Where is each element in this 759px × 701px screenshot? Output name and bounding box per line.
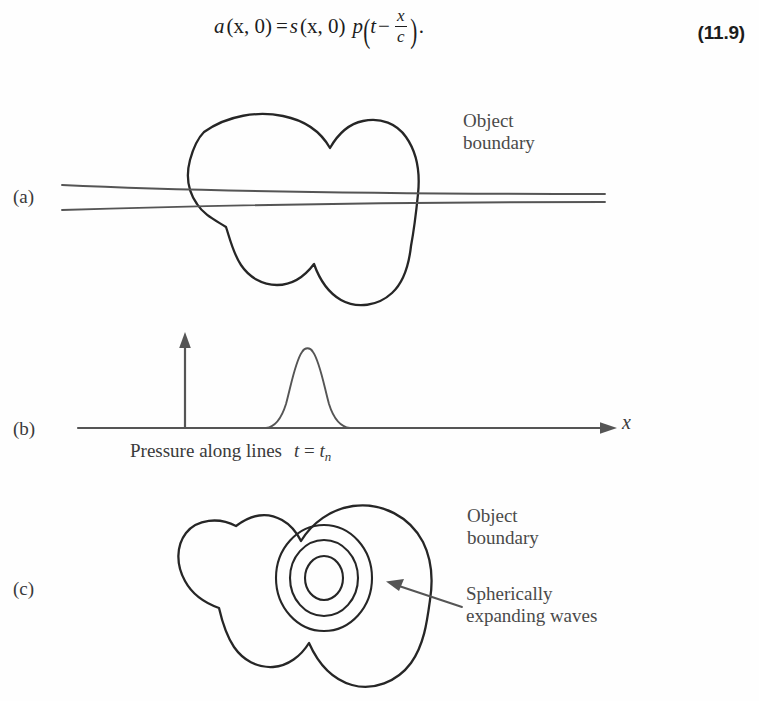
equation-rhs-arguments-s: (x, 0): [298, 14, 348, 38]
wavefront-circle-inner: [305, 556, 343, 600]
equation-rhs-function-p: p: [352, 14, 363, 38]
object-boundary-outline-a: [188, 114, 419, 305]
caption-prefix-text: Pressure along lines: [130, 440, 282, 461]
equation-close-paren: ): [410, 12, 417, 49]
caption-variable-t: t: [294, 440, 299, 461]
object-boundary-outline-c: [178, 505, 431, 686]
equation-fraction-numerator: x: [395, 7, 407, 26]
figure-b-graphic: [0, 320, 759, 460]
annotation-arrow-left-icon: [386, 579, 404, 591]
ray-line-lower-a: [62, 202, 605, 210]
x-axis-label: x: [622, 411, 631, 434]
equation-lhs-function: a: [214, 14, 225, 38]
ray-line-upper-a: [62, 185, 605, 194]
caption-equals: =: [304, 440, 315, 461]
equation-fraction-denominator: c: [395, 26, 407, 46]
document-page: a(x, 0)=s(x, 0)p(t−xc). (11.9) (a) Objec…: [0, 0, 759, 701]
equation-rhs-function-s: s: [290, 14, 298, 38]
equation-equals-sign: =: [274, 14, 290, 38]
figure-c-graphic: [0, 490, 759, 701]
equation-number: (11.9): [698, 22, 745, 44]
figure-b-caption: Pressure along linest = tn: [130, 440, 331, 465]
annotation-object-boundary-c: Object boundary: [467, 505, 539, 549]
annotation-arrow-shaft: [393, 584, 462, 607]
annotation-spherically-expanding-waves: Spherically expanding waves: [466, 583, 597, 627]
equation-lhs-arguments: (x, 0): [224, 14, 274, 38]
annotation-object-boundary-a: Object boundary: [463, 110, 535, 154]
equation-fraction-x-over-c: xc: [395, 7, 407, 47]
equation-inner-minus: −: [376, 14, 392, 38]
equation-row: a(x, 0)=s(x, 0)p(t−xc). (11.9): [0, 8, 759, 66]
equation-terminal-period: .: [417, 14, 426, 38]
equation-open-paren: (: [363, 12, 370, 49]
figure-a-graphic: [0, 90, 759, 320]
axis-arrow-right-icon: [600, 422, 617, 434]
pressure-pulse-curve: [266, 348, 350, 428]
axis-arrow-up-icon: [179, 332, 191, 348]
caption-subscript-n: n: [325, 449, 331, 464]
wavefront-circle-middle: [290, 540, 358, 616]
equation-expression: a(x, 0)=s(x, 0)p(t−xc).: [0, 8, 640, 49]
